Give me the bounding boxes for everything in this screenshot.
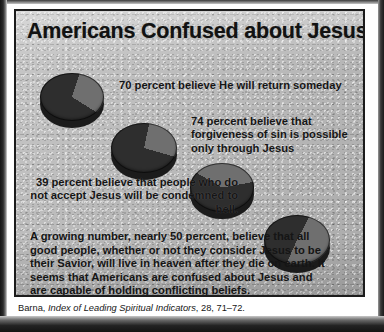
paragraph-50-percent: A growing number, nearly 50 percent, bel…	[30, 230, 330, 297]
callout-74-percent: 74 percent believe that forgiveness of s…	[191, 115, 365, 155]
pie-disc-top	[111, 123, 177, 173]
pie-chart-70-percent	[40, 73, 104, 121]
caption-author: Barna,	[18, 303, 45, 313]
callout-39-percent: 39 percent believe that people who do no…	[30, 176, 238, 216]
figure-box: Americans Confused about Jesus 70 percen…	[14, 9, 365, 297]
scan-edge-top	[0, 0, 384, 4]
scan-edge-left	[0, 0, 7, 332]
pie-chart-74-percent	[111, 123, 177, 173]
callout-70-percent: 70 percent believe He will return someda…	[119, 79, 342, 92]
pie-disc-top	[40, 73, 104, 121]
caption-work-title: Index of Leading Spiritual Indicators	[48, 303, 196, 313]
scan-edge-right	[378, 0, 384, 332]
scan-edge-bottom	[0, 316, 384, 332]
figure-caption: Barna, Index of Leading Spiritual Indica…	[18, 303, 245, 313]
figure-title: Americans Confused about Jesus	[27, 19, 365, 44]
caption-pages: , 28, 71–72.	[196, 303, 245, 313]
